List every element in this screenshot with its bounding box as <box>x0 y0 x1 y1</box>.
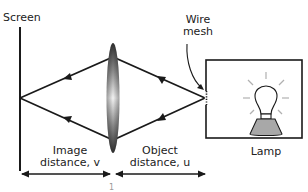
ray-arrow-icon <box>157 113 166 121</box>
wire-mesh-label-line2: mesh <box>176 26 220 38</box>
lamp-label: Lamp <box>244 146 288 158</box>
wire-mesh-label: Wire mesh <box>176 14 220 38</box>
bulb-socket <box>261 114 271 119</box>
converging-lens <box>107 43 120 153</box>
cutoff-text: 1 <box>109 182 114 192</box>
screen-label: Screen <box>3 12 41 24</box>
object-distance-label-line2: distance, u <box>118 157 202 169</box>
mesh-pointer-arrow <box>187 44 202 88</box>
image-distance-label-line2: distance, v <box>30 157 110 169</box>
ray-arrow-icon <box>63 73 72 80</box>
ray-arrow-icon <box>63 116 72 123</box>
object-distance-label: Object distance, u <box>118 145 202 169</box>
image-distance-label: Image distance, v <box>30 145 110 169</box>
